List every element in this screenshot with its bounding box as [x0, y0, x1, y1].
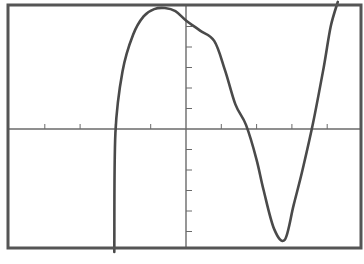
plot-background: [0, 0, 364, 264]
function-graph: [0, 0, 364, 264]
